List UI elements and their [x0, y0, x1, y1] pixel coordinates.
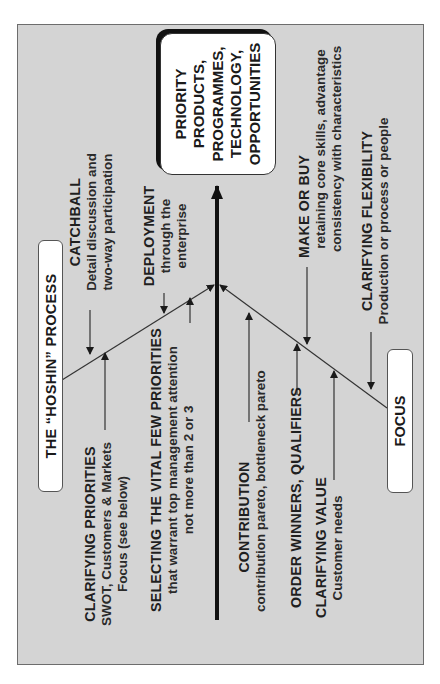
- clarifying-priorities-label: CLARIFYING PRIORITIES SWOT, Customers & …: [82, 429, 132, 639]
- clarifying-flexibility-label: CLARIFYING FLEXIBILITY Production or pro…: [359, 110, 392, 332]
- target-line: OPPORTUNITIES: [246, 43, 265, 166]
- selecting-vital-few-label: SELECTING THE VITAL FEW PRIORITIES that …: [148, 322, 198, 618]
- hoshin-process-box: THE “HOSHIN” PROCESS: [38, 240, 63, 492]
- target-line: PROGRAMMES,: [209, 47, 228, 162]
- target-line: PRODUCTS,: [190, 60, 209, 148]
- target-line: PRIORITY: [172, 69, 191, 140]
- contribution-label: CONTRIBUTION contribution pareto, bottle…: [236, 422, 269, 612]
- catchball-label: CATCHBALL Detail discussion and two-way …: [67, 137, 117, 307]
- clarifying-value-label: CLARIFYING VALUE Customer needs: [313, 478, 346, 618]
- rotated-diagram-stage: THE “HOSHIN” PROCESS FOCUS PRIORITY PROD…: [0, 0, 440, 684]
- deployment-label: DEPLOYMENT through the enterprise: [141, 181, 191, 291]
- focus-box: FOCUS: [387, 349, 413, 493]
- target-line: TECHNOLOGY,: [227, 50, 246, 158]
- hoshin-process-label: THE “HOSHIN” PROCESS: [43, 274, 59, 459]
- order-winners-label: ORDER WINNERS, QUALIFIERS: [288, 396, 305, 608]
- make-or-buy-label: MAKE OR BUY retaining core skills, advan…: [296, 34, 346, 264]
- priority-target-box: PRIORITY PRODUCTS, PROGRAMMES, TECHNOLOG…: [160, 33, 276, 175]
- focus-label: FOCUS: [392, 396, 408, 447]
